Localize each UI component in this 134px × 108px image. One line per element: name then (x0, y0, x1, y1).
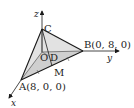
y-axis-label: y (106, 53, 113, 63)
x-axis-label: x (11, 98, 16, 108)
point-a-label: A(8, 0, 0) (18, 81, 66, 92)
point-b-label: B(0, 8, 0) (84, 39, 131, 50)
point-d-label: D (50, 52, 58, 63)
tetrahedron-diagram: z y x C O D M A(8, 0, 0) B(0, 8, 0) (0, 0, 134, 108)
z-axis-label: z (33, 9, 39, 19)
point-c-label: C (44, 23, 52, 34)
point-o-label: O (40, 52, 48, 63)
point-m-label: M (54, 67, 64, 78)
